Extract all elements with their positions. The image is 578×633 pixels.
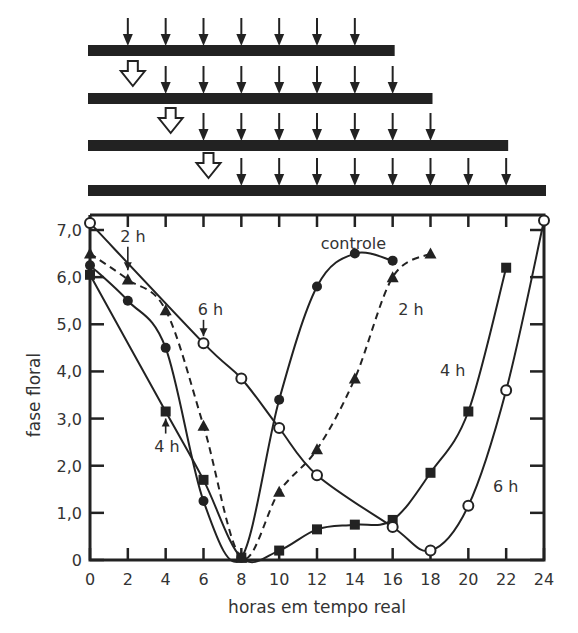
y-tick-label: 4,0 [57,362,82,381]
y-tick-label: 5,0 [57,315,82,334]
data-point-open-circle [236,374,246,384]
y-tick-label: 0 [72,551,82,570]
data-point-triangle [273,486,285,497]
data-point-triangle [122,274,134,285]
series-line [90,254,431,559]
arrowhead-icon [388,174,398,186]
arrowhead-icon [236,34,246,46]
arrowhead-icon [426,174,436,186]
data-point-square [501,263,511,273]
x-tick-label: 12 [307,570,327,589]
arrowhead-icon [501,174,511,186]
arrowhead-icon [312,34,322,46]
series-4h [85,263,511,563]
x-axis-label: horas em tempo real [228,597,406,617]
annotations-layer: controle2 h2 h4 h4 h6 h6 h [120,227,518,496]
data-point-open-circle [199,338,209,348]
data-point-triangle [311,443,323,454]
annotation-label: 6 h [493,477,518,496]
x-tick-label: 20 [458,570,478,589]
data-point-open-circle [539,216,549,226]
arrowhead-icon [388,82,398,94]
y-tick-label: 6,0 [57,268,82,287]
x-tick-label: 4 [161,570,171,589]
x-tick-label: 2 [123,570,133,589]
arrowhead-icon [236,129,246,141]
data-point-circle [388,256,398,266]
arrowhead-icon [312,174,322,186]
data-point-triangle [349,373,361,384]
arrowhead-icon [388,129,398,141]
arrowhead-icon [274,34,284,46]
x-tick-label: 24 [534,570,554,589]
y-axis-label: fase floral [24,353,44,437]
series-6h [85,216,549,556]
data-point-square [463,407,473,417]
annotation-label: 6 h [198,300,223,319]
x-tick-label: 0 [85,570,95,589]
axes: 02468101214161820222401,02,03,04,05,06,0… [57,215,555,589]
arrowhead-icon [199,129,209,141]
data-point-square [161,407,171,417]
arrowhead-icon [312,82,322,94]
data-point-square [350,520,360,530]
data-point-circle [199,496,209,506]
data-point-open-circle [388,522,398,532]
annotation-label: controle [321,234,386,253]
x-tick-label: 6 [198,570,208,589]
series-controle [85,249,398,563]
arrowhead-icon [199,82,209,94]
y-tick-label: 2,0 [57,457,82,476]
data-point-circle [123,296,133,306]
data-point-triangle [425,248,437,259]
schedule-row [88,153,546,196]
series-layer [84,216,549,563]
arrowhead-icon [350,129,360,141]
data-point-open-circle [501,385,511,395]
x-tick-label: 22 [496,570,516,589]
arrowhead-icon [161,82,171,94]
series-line [90,253,393,562]
arrowhead-icon [350,34,360,46]
arrowhead-icon [350,174,360,186]
data-point-open-circle [274,423,284,433]
data-point-square [274,546,284,556]
floral-phase-chart: 02468101214161820222401,02,03,04,05,06,0… [0,0,578,633]
y-tick-label: 1,0 [57,504,82,523]
arrowhead-icon [236,174,246,186]
arrowhead-icon [200,328,208,336]
schedule-diagram [88,18,546,196]
arrowhead-icon [123,34,133,46]
data-point-circle [312,282,322,292]
data-point-square [199,475,209,485]
arrowhead-icon [274,129,284,141]
data-point-square [312,524,322,534]
schedule-bar [88,93,433,104]
data-point-circle [274,395,284,405]
data-point-square [426,468,436,478]
y-tick-label: 7,0 [57,221,82,240]
treatment-hollow-arrow-icon [121,61,145,86]
schedule-bar [88,140,508,151]
data-point-open-circle [463,501,473,511]
schedule-row [88,108,508,151]
x-tick-label: 18 [420,570,440,589]
data-point-circle [85,260,95,270]
data-point-square [236,553,246,563]
annotation-label: 4 h [154,437,179,456]
annotation-label: 2 h [120,227,145,246]
arrowhead-icon [350,82,360,94]
arrowhead-icon [312,129,322,141]
data-point-triangle [198,420,210,431]
x-tick-label: 10 [269,570,289,589]
arrowhead-icon [161,34,171,46]
data-point-triangle [84,248,96,259]
arrowhead-icon [274,82,284,94]
schedule-row [88,61,433,104]
treatment-hollow-arrow-icon [197,153,221,178]
x-tick-label: 16 [382,570,402,589]
series-2h [84,248,437,563]
data-point-triangle [160,304,172,315]
data-point-circle [161,343,171,353]
series-line [90,268,506,563]
